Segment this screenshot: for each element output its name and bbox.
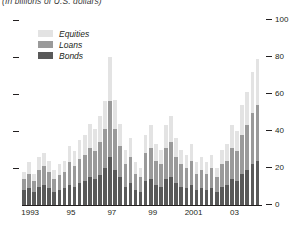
y-tick-mark: [266, 19, 272, 20]
y-tick-mark: [266, 56, 272, 57]
bar-segment-loans: [174, 157, 178, 183]
bar-segment-equities: [159, 150, 163, 165]
bar-segment-bonds: [22, 190, 26, 205]
bar-segment-bonds: [251, 164, 255, 205]
bar-segment-equities: [42, 153, 46, 166]
bar-segment-equities: [195, 162, 199, 173]
bar: [164, 125, 168, 205]
bar: [174, 138, 178, 205]
bar-segment-bonds: [124, 187, 128, 206]
x-axis-baseline: [22, 205, 262, 206]
bar-segment-loans: [149, 148, 153, 179]
bar: [93, 129, 97, 205]
bar-segment-bonds: [154, 185, 158, 205]
y-tick-mark-left-20: [13, 168, 19, 169]
bar-segment-loans: [68, 162, 72, 184]
bar-segment-loans: [164, 148, 168, 179]
y-tick-80: 80: [266, 52, 284, 61]
bar-segment-equities: [190, 144, 194, 161]
y-tick-label: 20: [275, 163, 284, 172]
x-tick-label-97: 97: [107, 208, 116, 217]
bar-segment-bonds: [185, 188, 189, 205]
bar-segment-bonds: [73, 187, 77, 206]
bar-segment-loans: [235, 151, 239, 181]
bar-segment-loans: [58, 175, 62, 190]
x-tick-label-95: 95: [67, 208, 76, 217]
bar: [144, 135, 148, 205]
bar: [179, 150, 183, 205]
bar-segment-bonds: [190, 185, 194, 205]
bar-segment-equities: [73, 151, 77, 166]
bar-segment-bonds: [88, 177, 92, 205]
bar-segment-loans: [240, 135, 244, 174]
bar-segment-loans: [98, 142, 102, 175]
bar-segment-bonds: [220, 187, 224, 206]
bar: [215, 168, 219, 205]
bar: [47, 161, 51, 205]
bar: [185, 155, 189, 205]
bar-segment-equities: [113, 100, 117, 130]
bar-segment-loans: [118, 146, 122, 177]
y-tick-mark-left-100: [13, 20, 19, 21]
bar-segment-loans: [22, 179, 26, 190]
bar-segment-loans: [83, 155, 87, 181]
bar-segment-equities: [98, 116, 102, 142]
bar-segment-bonds: [245, 170, 249, 205]
bar-segment-loans: [139, 177, 143, 192]
bar-segment-loans: [256, 105, 260, 161]
bar-segment-bonds: [134, 190, 138, 205]
bar-segment-equities: [47, 161, 51, 172]
bar-segment-bonds: [37, 187, 41, 206]
bar-segment-bonds: [164, 179, 168, 205]
bar-segment-equities: [32, 174, 36, 181]
bar-segment-loans: [27, 174, 31, 189]
bar-segment-loans: [88, 148, 92, 178]
bar: [113, 100, 117, 205]
bar-segment-bonds: [108, 157, 112, 205]
bar: [251, 72, 255, 205]
bar: [256, 59, 260, 205]
bar-segment-loans: [124, 164, 128, 186]
bar-segment-equities: [78, 140, 82, 159]
bar-segment-equities: [164, 125, 168, 147]
y-tick-label: 40: [275, 126, 284, 135]
bar-segment-loans: [144, 153, 148, 181]
bar-segment-loans: [205, 174, 209, 191]
bar: [245, 92, 249, 205]
bar-segment-equities: [174, 138, 178, 157]
bar-segment-bonds: [83, 181, 87, 205]
bar-segment-bonds: [63, 188, 67, 205]
bar-segment-equities: [52, 170, 56, 179]
bar-segment-loans: [78, 159, 82, 183]
bar-segment-loans: [63, 172, 67, 189]
bar-segment-bonds: [113, 170, 117, 205]
bar-segment-bonds: [129, 183, 133, 205]
bar-segment-bonds: [205, 190, 209, 205]
bar: [230, 125, 234, 205]
bar-segment-loans: [210, 168, 214, 188]
bar: [32, 174, 36, 205]
bar: [22, 172, 26, 205]
bar-segment-equities: [27, 162, 31, 173]
bar-segment-loans: [37, 170, 41, 187]
bar: [129, 138, 133, 205]
bar-segment-bonds: [235, 181, 239, 205]
bar-segment-equities: [245, 92, 249, 125]
bar: [27, 162, 31, 205]
bar-segment-equities: [139, 168, 143, 177]
bars-group: [22, 20, 262, 205]
bar-segment-equities: [144, 135, 148, 154]
bar-segment-loans: [200, 170, 204, 189]
bar-segment-equities: [129, 138, 133, 157]
bar: [149, 125, 153, 205]
y-tick-60: 60: [266, 89, 284, 98]
chart-subtitle: (In billions of U.S. dollars): [2, 0, 102, 6]
bar-segment-bonds: [215, 192, 219, 205]
bar-segment-equities: [154, 144, 158, 161]
bar-segment-loans: [215, 177, 219, 192]
bar: [52, 170, 56, 205]
bar-segment-equities: [63, 161, 67, 172]
bar: [42, 153, 46, 205]
bar: [83, 135, 87, 205]
bar: [154, 144, 158, 205]
